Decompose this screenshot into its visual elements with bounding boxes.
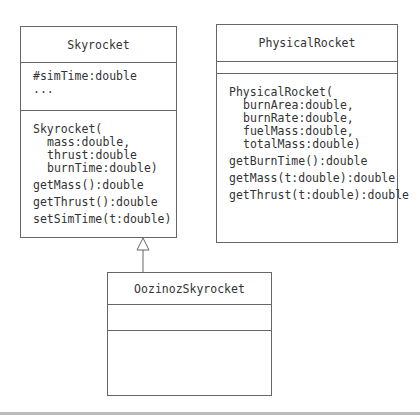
- attribute: #simTime:double: [33, 70, 176, 83]
- page-divider: [0, 412, 420, 415]
- generalization-arrow-icon: [134, 237, 152, 273]
- class-name: Skyrocket: [21, 27, 176, 63]
- class-name: PhysicalRocket: [217, 25, 397, 62]
- method: getBurnTime():double: [229, 155, 397, 168]
- param: totalMass:double): [229, 138, 397, 151]
- param: burnTime:double): [33, 162, 176, 175]
- method: getThrust(t:double):double: [229, 189, 397, 202]
- attributes-section: [217, 62, 397, 74]
- attribute-ellipsis: ...: [33, 83, 176, 96]
- class-physical-rocket: PhysicalRocket PhysicalRocket( burnArea:…: [216, 24, 398, 243]
- method: getMass():double: [33, 179, 176, 192]
- method: getMass(t:double):double: [229, 172, 397, 185]
- class-name: OozinozSkyrocket: [108, 273, 271, 305]
- class-oozinoz-skyrocket: OozinozSkyrocket: [107, 272, 272, 396]
- attributes-section: [108, 305, 271, 331]
- method: setSimTime(t:double): [33, 213, 176, 226]
- operations-section: Skyrocket( mass:double, thrust:double bu…: [21, 111, 176, 226]
- method: getThrust():double: [33, 196, 176, 209]
- attributes-section: #simTime:double ...: [21, 63, 176, 111]
- operations-section: PhysicalRocket( burnArea:double, burnRat…: [217, 74, 397, 202]
- class-skyrocket: Skyrocket #simTime:double ... Skyrocket(…: [20, 26, 177, 238]
